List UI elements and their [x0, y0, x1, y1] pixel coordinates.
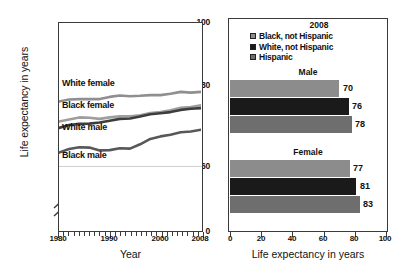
left-x-axis-title: Year [58, 248, 203, 260]
group-label-male: Male [230, 67, 386, 77]
line-chart-panel: Life expectancy in years 100 80 60 0 [0, 0, 210, 278]
left-y-axis-title: Life expectancy in years [18, 42, 30, 162]
bar-male-hispanic [230, 116, 352, 133]
legend-label-white-not-hispanic: White, not Hispanic [259, 42, 333, 52]
legend-swatch-icon-hispanic [250, 54, 256, 60]
left-xtick-1990: 1990 [91, 234, 127, 243]
group-label-female: Female [230, 147, 386, 157]
left-x-tick [84, 232, 85, 236]
bar-chart-panel: 2008 Black, not Hispanic White, not Hisp… [210, 0, 413, 278]
bar-female-hispanic [230, 196, 360, 213]
bar-value-female-black-not-hispanic: 77 [353, 163, 363, 173]
figure-root: Life expectancy in years 100 80 60 0 [0, 0, 413, 278]
left-x-tick [136, 232, 137, 236]
bar-male-white-not-hispanic [230, 98, 349, 115]
right-xtick-60: 60 [307, 234, 339, 243]
left-x-tick [131, 232, 132, 236]
series-label-black-female: Black female [62, 100, 114, 110]
right-xtick-0: 0 [214, 234, 246, 243]
legend-label-hispanic: Hispanic [259, 52, 292, 62]
legend-title: 2008 [250, 20, 388, 30]
legend: 2008 Black, not Hispanic White, not Hisp… [250, 20, 388, 62]
right-x-axis-title: Life expectancy in years [228, 248, 388, 260]
legend-item-hispanic: Hispanic [250, 52, 388, 62]
series-label-white-male: White male [62, 122, 107, 132]
bar-value-male-hispanic: 78 [355, 119, 365, 129]
bar-male-black-not-hispanic [230, 80, 339, 97]
left-x-tick [89, 232, 90, 236]
bar-value-male-white-not-hispanic: 76 [352, 101, 362, 111]
bar-female-white-not-hispanic [230, 178, 356, 195]
right-xtick-20: 20 [245, 234, 277, 243]
left-xtick-1980: 1980 [40, 234, 76, 243]
right-xtick-40: 40 [276, 234, 308, 243]
right-xtick-100: 100 [369, 234, 401, 243]
legend-swatch-icon-black-not-hispanic [250, 33, 256, 39]
left-xtick-2000: 2000 [142, 234, 178, 243]
series-label-black-male: Black male [62, 150, 107, 160]
bar-value-female-hispanic: 83 [363, 199, 373, 209]
right-xtick-80: 80 [338, 234, 370, 243]
left-x-tick [79, 232, 80, 236]
legend-swatch-icon-white-not-hispanic [250, 44, 256, 50]
legend-item-white-not-hispanic: White, not Hispanic [250, 42, 388, 52]
series-label-white-female: White female [62, 78, 115, 88]
legend-label-black-not-hispanic: Black, not Hispanic [259, 31, 333, 41]
bar-value-female-white-not-hispanic: 81 [360, 181, 370, 191]
legend-item-black-not-hispanic: Black, not Hispanic [250, 31, 388, 41]
bar-value-male-black-not-hispanic: 70 [343, 83, 353, 93]
bar-female-black-not-hispanic [230, 160, 350, 177]
